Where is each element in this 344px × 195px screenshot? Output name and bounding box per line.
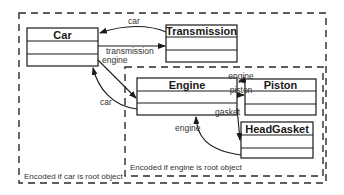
class-headgasket: HeadGasket <box>241 122 313 158</box>
class-transmission: Transmission <box>166 25 237 62</box>
edge-headgasket-to-engine: engine <box>175 117 241 155</box>
edge-label-piston: piston <box>230 85 253 95</box>
edge-label-car: car <box>100 97 112 107</box>
edge-label-car: car <box>128 16 140 26</box>
edge-engine-to-car: car <box>93 68 137 109</box>
class-car-name: Car <box>53 29 72 41</box>
class-piston: Piston <box>245 79 316 115</box>
outer-region-label: Encoded if car is root object <box>24 172 123 181</box>
edge-label-gasket: gasket <box>215 107 241 117</box>
class-engine-name: Engine <box>169 79 206 91</box>
edge-car-to-engine: engine <box>98 55 136 98</box>
class-headgasket-name: HeadGasket <box>245 123 309 135</box>
inner-region-label: Encoded if engine is root object <box>130 163 242 172</box>
edge-transmission-to-car: car <box>100 16 166 33</box>
class-car: Car <box>27 28 98 66</box>
edge-label-engine: engine <box>102 55 128 65</box>
edge-label-engine: engine <box>175 123 201 133</box>
object-graph-diagram: Car Transmission Engine Piston HeadGaske… <box>0 0 344 195</box>
edge-engine-to-headgasket: gasket <box>215 107 241 140</box>
edge-engine-to-piston: piston <box>230 85 253 95</box>
class-piston-name: Piston <box>264 79 298 91</box>
edge-label-engine: engine <box>228 71 254 81</box>
class-transmission-name: Transmission <box>166 25 237 37</box>
